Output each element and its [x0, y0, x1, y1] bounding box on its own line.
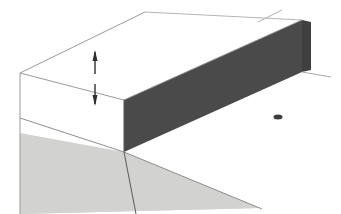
- dark-slab-right-end-face: [302, 20, 311, 72]
- small-dark-marker: [274, 115, 283, 120]
- isometric-block-diagram: [0, 0, 341, 214]
- diagram-canvas: [0, 0, 341, 214]
